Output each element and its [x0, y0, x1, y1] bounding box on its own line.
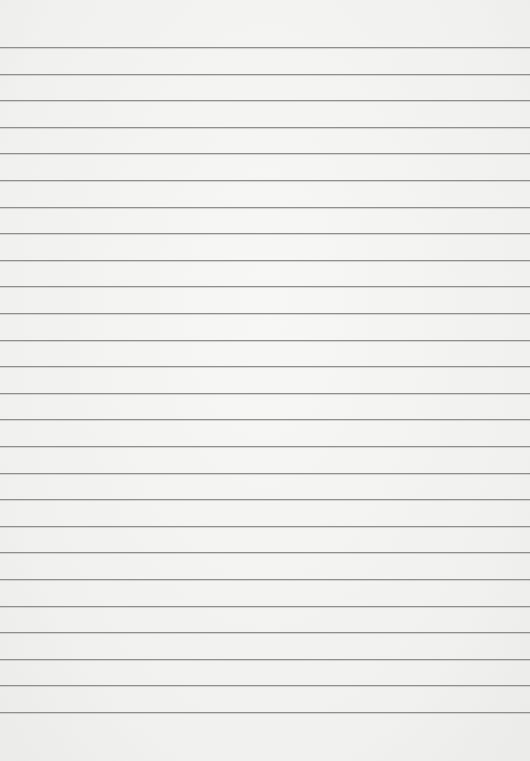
ruled-line	[0, 153, 530, 154]
ruled-line	[0, 260, 530, 261]
lined-paper-sheet	[0, 0, 530, 761]
ruled-line	[0, 74, 530, 75]
ruled-line	[0, 473, 530, 474]
ruled-line	[0, 340, 530, 341]
ruled-line	[0, 579, 530, 580]
ruled-line	[0, 632, 530, 633]
ruled-line	[0, 659, 530, 660]
ruled-line	[0, 685, 530, 686]
ruled-line	[0, 712, 530, 713]
ruled-line	[0, 366, 530, 367]
ruled-line	[0, 180, 530, 181]
ruled-line	[0, 526, 530, 527]
ruled-line	[0, 393, 530, 394]
ruled-line	[0, 47, 530, 48]
ruled-line	[0, 100, 530, 101]
ruled-line	[0, 606, 530, 607]
ruled-line	[0, 313, 530, 314]
ruled-line	[0, 499, 530, 500]
ruled-line	[0, 446, 530, 447]
ruled-line	[0, 207, 530, 208]
ruled-line	[0, 552, 530, 553]
ruled-line	[0, 233, 530, 234]
ruled-line	[0, 286, 530, 287]
ruled-line	[0, 127, 530, 128]
ruled-line	[0, 419, 530, 420]
